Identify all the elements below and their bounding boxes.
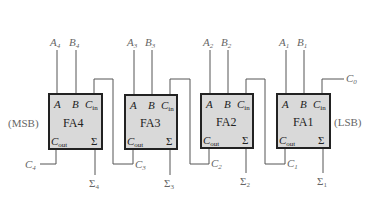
- label-c3: C3: [135, 158, 146, 172]
- lsb-label: (LSB): [334, 116, 362, 129]
- svg-text:B: B: [72, 98, 79, 110]
- label-b3: B3: [145, 36, 156, 50]
- label-a1: A1: [278, 36, 289, 50]
- label-c0: C0: [346, 72, 357, 86]
- label-a2: A2: [202, 36, 214, 50]
- svg-text:A: A: [205, 98, 213, 110]
- label-sum4: Σ4: [89, 177, 99, 191]
- svg-text:FA3: FA3: [140, 116, 160, 130]
- svg-text:Σ: Σ: [166, 135, 172, 147]
- svg-text:Σ: Σ: [242, 134, 248, 146]
- label-sum1: Σ1: [317, 175, 327, 189]
- full-adder-fa2: A B Cin FA2 Cout Σ: [201, 94, 253, 148]
- sum-labels: Σ4 Σ3 Σ2 Σ1: [89, 175, 327, 191]
- svg-text:A: A: [129, 99, 137, 111]
- svg-text:Σ: Σ: [91, 135, 97, 147]
- full-adder-fa3: A B Cin FA3 Cout Σ: [125, 95, 177, 149]
- svg-text:Σ: Σ: [318, 134, 324, 146]
- msb-label: (MSB): [8, 117, 39, 130]
- full-adder-fa4: A B Cin FA4 Cout Σ: [49, 94, 102, 149]
- label-b1: B1: [297, 36, 307, 50]
- svg-text:FA2: FA2: [216, 115, 236, 129]
- label-a3: A3: [126, 36, 138, 50]
- svg-text:FA1: FA1: [293, 115, 313, 129]
- label-c4: C4: [25, 158, 36, 172]
- label-sum3: Σ3: [164, 177, 174, 191]
- svg-text:B: B: [148, 99, 155, 111]
- label-sum2: Σ2: [240, 175, 250, 189]
- label-a4: A4: [49, 36, 61, 50]
- svg-text:A: A: [53, 98, 61, 110]
- label-b4: B4: [69, 36, 80, 50]
- label-c2: C2: [211, 157, 222, 171]
- parallel-adder-diagram: A4 B4 A3 B3 A2 B2 A1 B1 C0 A B Cin FA4 C…: [0, 0, 374, 201]
- carry-labels: C4 C3 C2 C1: [25, 157, 298, 172]
- svg-text:B: B: [224, 98, 231, 110]
- label-c1: C1: [287, 157, 298, 171]
- svg-text:FA4: FA4: [63, 116, 83, 130]
- label-b2: B2: [221, 36, 232, 50]
- svg-text:B: B: [300, 98, 307, 110]
- full-adder-fa1: A B Cin FA1 Cout Σ: [277, 94, 330, 148]
- svg-text:A: A: [281, 98, 289, 110]
